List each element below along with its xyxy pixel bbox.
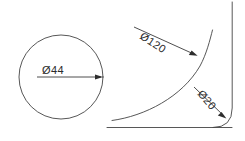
technical-drawing-canvas: Ø44 Ø120 Ø20 — [0, 0, 245, 141]
diameter-20-label: Ø20 — [195, 88, 218, 113]
diameter-20-arrowhead — [218, 112, 227, 118]
diameter-44-arrowhead — [95, 74, 103, 79]
drawing-svg: Ø44 Ø120 Ø20 — [0, 0, 245, 141]
diameter-120-arrowhead — [189, 51, 198, 56]
circle-view-group — [19, 35, 103, 119]
diameter-120-label: Ø120 — [138, 30, 168, 56]
diameter-44-label: Ø44 — [42, 64, 64, 76]
